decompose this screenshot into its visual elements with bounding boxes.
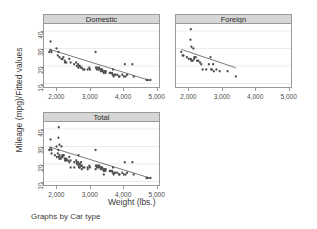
scatter-point <box>80 161 82 163</box>
x-axis-foreign: 2,0003,0004,0005,000 <box>175 88 292 102</box>
x-tick-label: 4,000 <box>247 92 263 101</box>
scatter-point <box>219 70 221 72</box>
scatter-point <box>58 144 60 146</box>
x-tick-mark <box>123 88 124 91</box>
scatter-point <box>58 56 60 58</box>
scatter-point <box>126 74 128 76</box>
x-axis-title: Weight (lbs.) <box>108 197 156 207</box>
scatter-point <box>73 166 75 168</box>
x-tick-mark <box>289 88 290 91</box>
y-tick-label: 20 <box>36 165 45 172</box>
y-tick-label: 30 <box>36 49 45 56</box>
scatter-figure: Mileage (mpg)/Fitted values Domestic 102… <box>0 0 317 229</box>
plot-area-total <box>43 122 160 186</box>
panel-title-domestic: Domestic <box>43 14 160 24</box>
scatter-point <box>55 47 57 49</box>
scatter-point <box>124 173 126 175</box>
y-tick-label: 40 <box>36 31 45 38</box>
scatter-point <box>116 74 118 76</box>
x-tick-label: 5,000 <box>149 92 165 101</box>
figure-caption: Graphs by Car type <box>31 212 100 221</box>
scatter-point <box>114 74 116 76</box>
scatter-point <box>77 154 79 156</box>
scatter-point <box>215 68 217 70</box>
x-tick-mark <box>157 88 158 91</box>
scatter-point <box>118 75 120 77</box>
scatter-point <box>49 138 51 140</box>
x-tick-label: 3,000 <box>214 92 230 101</box>
scatter-point <box>68 156 70 158</box>
scatter-point <box>112 68 114 70</box>
scatter-point <box>57 137 59 139</box>
plot-canvas-total <box>44 122 159 185</box>
x-tick-mark <box>188 88 189 91</box>
scatter-point <box>124 161 126 163</box>
y-tick-label: 40 <box>36 129 45 136</box>
x-tick-label: 2,000 <box>48 190 64 199</box>
scatter-point <box>58 154 60 156</box>
scatter-point <box>60 145 62 147</box>
plot-canvas-domestic <box>44 24 159 87</box>
scatter-point <box>188 58 190 60</box>
scatter-point <box>50 51 52 53</box>
scatter-point <box>209 56 211 58</box>
scatter-point <box>57 149 59 151</box>
scatter-point <box>149 177 151 179</box>
panel-foreign: Foreign <box>175 14 292 88</box>
scatter-point <box>190 28 192 30</box>
x-tick-mark <box>222 88 223 91</box>
plot-canvas-foreign <box>176 24 291 87</box>
x-tick-label: 5,000 <box>281 92 297 101</box>
scatter-point <box>235 75 237 77</box>
scatter-point <box>186 56 188 58</box>
scatter-point <box>87 68 89 70</box>
scatter-point <box>54 154 56 156</box>
plot-area-foreign <box>175 24 292 88</box>
scatter-point <box>195 56 197 58</box>
scatter-point <box>147 79 149 81</box>
x-tick-label: 3,000 <box>82 92 98 101</box>
scatter-point <box>124 75 126 77</box>
scatter-point <box>131 161 133 163</box>
scatter-point <box>65 158 67 160</box>
scatter-point <box>83 68 85 70</box>
scatter-point <box>49 40 51 42</box>
scatter-point <box>58 126 60 128</box>
scatter-point <box>201 68 203 70</box>
scatter-point <box>226 70 228 72</box>
panel-domestic: Domestic <box>43 14 160 88</box>
scatter-point <box>112 166 114 168</box>
scatter-point <box>190 46 192 48</box>
scatter-point <box>182 54 184 56</box>
scatter-point <box>212 63 214 65</box>
x-tick-mark <box>123 186 124 189</box>
x-tick-mark <box>255 88 256 91</box>
scatter-point <box>69 166 71 168</box>
scatter-point <box>94 51 96 53</box>
y-tick-label: 30 <box>36 147 45 154</box>
scatter-point <box>57 51 59 53</box>
scatter-point <box>149 79 151 81</box>
scatter-point <box>124 63 126 65</box>
scatter-point <box>103 173 105 175</box>
scatter-point <box>87 168 89 170</box>
panel-title-foreign: Foreign <box>175 14 292 24</box>
x-tick-mark <box>56 186 57 189</box>
scatter-point <box>133 75 135 77</box>
scatter-point <box>65 61 67 63</box>
scatter-point <box>63 154 65 156</box>
scatter-point <box>116 172 118 174</box>
scatter-point <box>211 68 213 70</box>
scatter-point <box>68 58 70 60</box>
scatter-point <box>89 166 91 168</box>
scatter-point <box>192 47 194 49</box>
x-tick-mark <box>157 186 158 189</box>
scatter-point <box>57 152 59 154</box>
scatter-point <box>69 159 71 161</box>
scatter-point <box>57 54 59 56</box>
scatter-point <box>50 149 52 151</box>
x-tick-label: 2,000 <box>180 92 196 101</box>
fitted-line <box>49 49 150 80</box>
panel-total: Total <box>43 112 160 186</box>
y-axis-total: 10203040 <box>21 112 43 186</box>
